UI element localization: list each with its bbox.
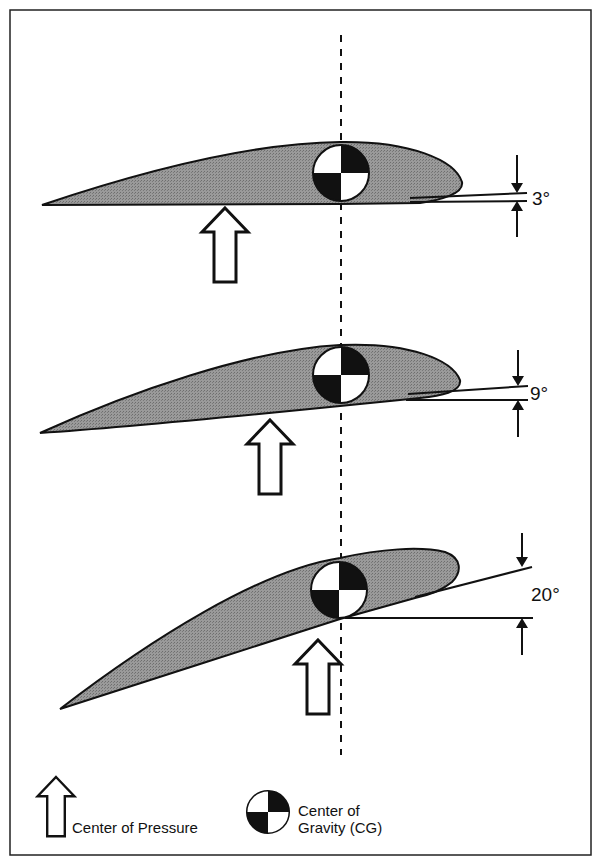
legend-center-of-pressure-label: Center of Pressure: [72, 819, 198, 836]
legend-cg-icon: [247, 791, 290, 834]
cg-symbol-icon: [311, 562, 367, 618]
legend-cg-label-line2: Gravity (CG): [298, 819, 382, 836]
airfoil-9deg: [40, 345, 460, 433]
center-of-pressure-arrow-icon: [202, 208, 248, 282]
legend-cg-label-line1: Center of: [298, 802, 361, 819]
angle-label-9: 9°: [530, 383, 548, 404]
angle-label-3: 3°: [532, 188, 550, 209]
airfoil-diagram: 3° 9° 20° Center of Pressure Center of: [0, 0, 601, 862]
panel-3deg: 3°: [42, 142, 550, 282]
legend-center-of-pressure-icon: [38, 777, 75, 836]
cg-symbol-icon: [313, 145, 369, 201]
legend: Center of Pressure Center of Gravity (CG…: [38, 777, 383, 836]
airfoil-20deg: [60, 549, 459, 709]
figure-frame: [10, 10, 591, 855]
panel-9deg: 9°: [40, 345, 548, 494]
center-of-pressure-arrow-icon: [295, 640, 341, 714]
angle-label-20: 20°: [531, 584, 560, 605]
panel-20deg: 20°: [60, 533, 560, 714]
cg-symbol-icon: [313, 347, 369, 403]
airfoil-3deg: [42, 142, 462, 205]
center-of-pressure-arrow-icon: [247, 420, 293, 494]
